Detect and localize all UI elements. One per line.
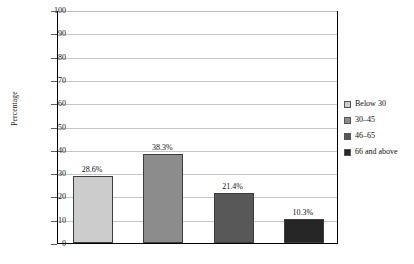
gridline [58, 11, 337, 12]
y-axis-tick-mark [51, 174, 57, 175]
bar-value-label: 28.6% [82, 166, 103, 174]
y-axis-tick-mark [51, 244, 57, 245]
y-axis-tick-label: 80 [26, 54, 66, 62]
y-axis-tick-label: 10 [26, 217, 66, 225]
y-axis-tick-mark [51, 221, 57, 222]
y-axis-tick-mark [51, 11, 57, 12]
legend-swatch-icon [344, 149, 351, 156]
bar-value-label: 38.3% [152, 144, 173, 152]
legend-item[interactable]: 30–45 [344, 113, 414, 127]
y-axis-tick-mark [51, 34, 57, 35]
legend-item[interactable]: Below 30 [344, 97, 414, 111]
y-axis-tick-label: 60 [26, 100, 66, 108]
legend-item-label: 30–45 [355, 116, 375, 124]
y-axis-tick-mark [51, 81, 57, 82]
y-axis-tick-label: 0 [26, 240, 66, 248]
bar [73, 176, 113, 243]
bar-value-label: 10.3% [293, 209, 314, 217]
gridline [58, 151, 337, 152]
bar-chart-figure: Percentage Below 3030–4546–6566 and abov… [0, 0, 414, 264]
gridline [58, 104, 337, 105]
bar-value-label: 21.4% [222, 183, 243, 191]
chart-legend: Below 3030–4546–6566 and above [344, 97, 414, 161]
legend-item-label: Below 30 [355, 100, 386, 108]
y-axis-tick-mark [51, 128, 57, 129]
legend-item[interactable]: 46–65 [344, 129, 414, 143]
y-axis-tick-mark [51, 197, 57, 198]
legend-item-label: 66 and above [355, 148, 398, 156]
y-axis-tick-label: 20 [26, 193, 66, 201]
gridline [58, 128, 337, 129]
y-axis-tick-label: 30 [26, 170, 66, 178]
gridline [58, 58, 337, 59]
legend-swatch-icon [344, 101, 351, 108]
bar [284, 219, 324, 243]
y-axis-title: Percentage [10, 73, 19, 145]
y-axis-tick-label: 90 [26, 30, 66, 38]
y-axis-tick-label: 50 [26, 124, 66, 132]
y-axis-tick-label: 70 [26, 77, 66, 85]
bar [143, 154, 183, 243]
legend-item-label: 46–65 [355, 132, 375, 140]
y-axis-tick-label: 100 [26, 7, 66, 15]
legend-swatch-icon [344, 117, 351, 124]
gridline [58, 34, 337, 35]
y-axis-tick-label: 40 [26, 147, 66, 155]
y-axis-tick-mark [51, 104, 57, 105]
y-axis-tick-mark [51, 151, 57, 152]
legend-swatch-icon [344, 133, 351, 140]
bar [214, 193, 254, 243]
legend-item[interactable]: 66 and above [344, 145, 414, 159]
y-axis-tick-mark [51, 58, 57, 59]
gridline [58, 81, 337, 82]
